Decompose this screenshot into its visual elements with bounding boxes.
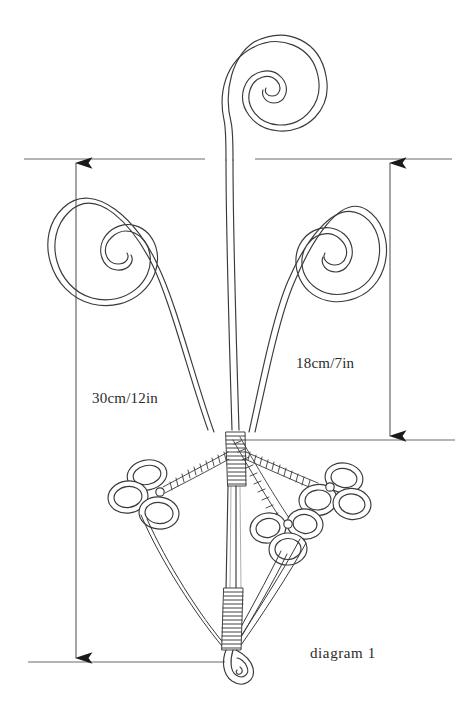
coiled-branch-left bbox=[163, 452, 229, 493]
right-lower-ring-cluster bbox=[248, 507, 325, 567]
coiled-branch-right bbox=[245, 452, 318, 490]
diagram-page: 30cm/12in 18cm/7in diagram 1 bbox=[0, 0, 476, 714]
center-lower-shaft bbox=[226, 486, 241, 590]
dimension-label-18cm: 18cm/7in bbox=[296, 355, 354, 372]
dimension-label-30cm: 30cm/12in bbox=[92, 390, 158, 407]
closed-end-loop bbox=[224, 650, 254, 684]
lower-wrapped-collar bbox=[222, 588, 243, 650]
wire-craft-diagram bbox=[0, 0, 476, 714]
top-spiral bbox=[222, 35, 327, 160]
right-spiral bbox=[249, 206, 387, 432]
diagram-caption: diagram 1 bbox=[310, 645, 376, 662]
center-stem bbox=[226, 160, 239, 430]
